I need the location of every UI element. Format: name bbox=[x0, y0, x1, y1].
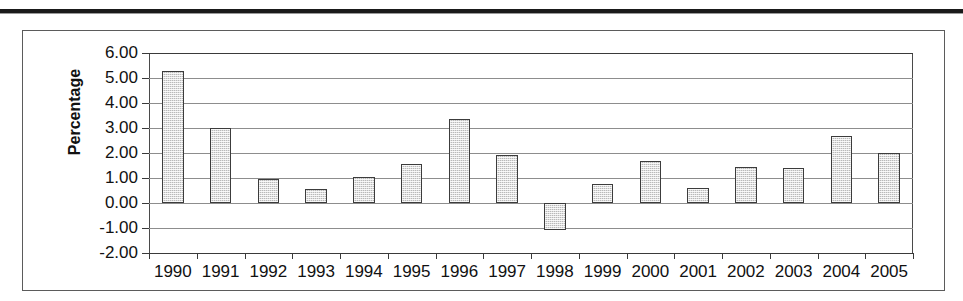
x-axis-tick bbox=[627, 253, 628, 259]
x-axis-tick-label-1990: 1990 bbox=[154, 262, 192, 282]
x-axis-tick bbox=[149, 253, 150, 259]
x-axis-tick-label-2000: 2000 bbox=[631, 262, 669, 282]
x-axis-tick bbox=[436, 253, 437, 259]
y-axis-tick bbox=[142, 253, 149, 254]
y-axis-tick bbox=[142, 178, 149, 179]
x-axis-tick-label-2002: 2002 bbox=[727, 262, 765, 282]
x-axis-tick-label-2001: 2001 bbox=[679, 262, 717, 282]
y-axis-title: Percentage bbox=[66, 52, 84, 172]
gridline bbox=[149, 53, 913, 54]
y-axis-tick-label: 3.00 bbox=[105, 118, 138, 138]
x-axis-tick bbox=[722, 253, 723, 259]
bar-1992[interactable] bbox=[258, 179, 279, 203]
gridline bbox=[149, 203, 913, 204]
x-axis-tick-label-1992: 1992 bbox=[249, 262, 287, 282]
x-axis-tick bbox=[197, 253, 198, 259]
bar-1993[interactable] bbox=[305, 189, 326, 203]
page-separator-rule bbox=[0, 9, 963, 13]
x-axis-tick-label-1991: 1991 bbox=[202, 262, 240, 282]
gridline bbox=[149, 128, 913, 129]
x-axis-tick bbox=[483, 253, 484, 259]
x-axis-tick bbox=[340, 253, 341, 259]
bar-2000[interactable] bbox=[640, 161, 661, 203]
y-axis-tick bbox=[142, 203, 149, 204]
chart-frame: Percentage 6.005.004.003.002.001.000.00-… bbox=[22, 30, 945, 291]
x-axis-tick-label-2004: 2004 bbox=[822, 262, 860, 282]
y-axis-tick-label: 4.00 bbox=[105, 93, 138, 113]
bar-2005[interactable] bbox=[878, 153, 899, 203]
y-axis-tick bbox=[142, 53, 149, 54]
bar-1991[interactable] bbox=[210, 128, 231, 204]
x-axis-tick bbox=[579, 253, 580, 259]
bar-2003[interactable] bbox=[783, 168, 804, 204]
x-axis-tick bbox=[388, 253, 389, 259]
x-axis-tick bbox=[818, 253, 819, 259]
y-axis-tick-label: -2.00 bbox=[99, 243, 138, 263]
bar-1990[interactable] bbox=[162, 71, 183, 204]
bar-1998[interactable] bbox=[544, 203, 565, 230]
bar-2002[interactable] bbox=[735, 167, 756, 203]
bar-1999[interactable] bbox=[592, 184, 613, 204]
x-axis-tick bbox=[245, 253, 246, 259]
x-axis-tick bbox=[531, 253, 532, 259]
y-axis-tick-label: -1.00 bbox=[99, 218, 138, 238]
y-axis-tick-label: 1.00 bbox=[105, 168, 138, 188]
x-axis-tick bbox=[865, 253, 866, 259]
x-axis-tick-label-1998: 1998 bbox=[536, 262, 574, 282]
plot-area: 6.005.004.003.002.001.000.00-1.00-2.00 1… bbox=[149, 53, 913, 253]
y-axis-tick-label: 2.00 bbox=[105, 143, 138, 163]
gridline bbox=[149, 228, 913, 229]
x-axis-tick-label-2003: 2003 bbox=[775, 262, 813, 282]
gridline bbox=[149, 78, 913, 79]
x-axis-tick bbox=[674, 253, 675, 259]
x-axis-tick-label-1993: 1993 bbox=[297, 262, 335, 282]
y-axis-tick-label: 6.00 bbox=[105, 43, 138, 63]
gridline bbox=[149, 153, 913, 154]
x-axis-tick-label-1999: 1999 bbox=[584, 262, 622, 282]
y-axis-tick-label: 0.00 bbox=[105, 193, 138, 213]
bar-1995[interactable] bbox=[401, 164, 422, 203]
x-axis-tick-label-2005: 2005 bbox=[870, 262, 908, 282]
bar-1994[interactable] bbox=[353, 177, 374, 203]
y-axis-tick bbox=[142, 128, 149, 129]
x-axis-tick-label-1994: 1994 bbox=[345, 262, 383, 282]
x-axis-tick bbox=[913, 253, 914, 259]
y-axis-tick bbox=[142, 153, 149, 154]
bar-2004[interactable] bbox=[831, 136, 852, 204]
gridline bbox=[149, 103, 913, 104]
bar-1997[interactable] bbox=[496, 155, 517, 203]
x-axis-tick-label-1995: 1995 bbox=[393, 262, 431, 282]
y-axis-tick-label: 5.00 bbox=[105, 68, 138, 88]
x-axis-tick bbox=[292, 253, 293, 259]
x-axis-tick-label-1996: 1996 bbox=[440, 262, 478, 282]
x-axis-tick bbox=[770, 253, 771, 259]
bar-1996[interactable] bbox=[449, 119, 470, 203]
y-axis-tick bbox=[142, 78, 149, 79]
y-axis-tick bbox=[142, 228, 149, 229]
y-axis-tick bbox=[142, 103, 149, 104]
bar-2001[interactable] bbox=[687, 188, 708, 203]
x-axis-tick-label-1997: 1997 bbox=[488, 262, 526, 282]
